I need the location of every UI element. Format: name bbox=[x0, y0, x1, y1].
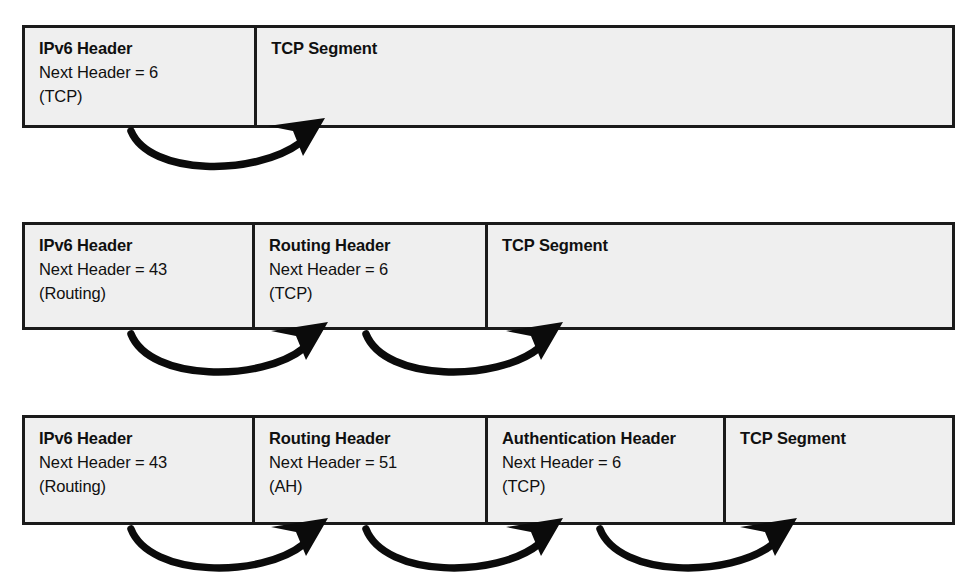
cell-next-header-protocol: (TCP) bbox=[269, 282, 485, 306]
cell-next-header-value: Next Header = 51 bbox=[269, 451, 485, 475]
packet-cell-tcp-segment: TCP Segment bbox=[488, 225, 952, 327]
cell-title: IPv6 Header bbox=[39, 234, 252, 258]
cell-next-header-value: Next Header = 6 bbox=[39, 61, 254, 85]
cell-next-header-value: Next Header = 6 bbox=[269, 258, 485, 282]
packet-row-two-extension-headers: IPv6 Header Next Header = 43 (Routing) R… bbox=[22, 415, 955, 525]
packet-row-no-extension-headers: IPv6 Header Next Header = 6 (TCP) TCP Se… bbox=[22, 25, 955, 128]
packet-cell-routing-header: Routing Header Next Header = 6 (TCP) bbox=[255, 225, 488, 327]
cell-next-header-protocol: (Routing) bbox=[39, 475, 252, 499]
packet-cell-tcp-segment: TCP Segment bbox=[726, 418, 952, 522]
cell-title: Routing Header bbox=[269, 427, 485, 451]
cell-next-header-value: Next Header = 6 bbox=[502, 451, 723, 475]
packet-cell-ipv6-header: IPv6 Header Next Header = 6 (TCP) bbox=[25, 28, 257, 125]
arrow-row2-routing-to-ah bbox=[366, 518, 563, 568]
cell-title: IPv6 Header bbox=[39, 37, 254, 61]
packet-cell-tcp-segment: TCP Segment bbox=[257, 28, 952, 125]
packet-cell-ipv6-header: IPv6 Header Next Header = 43 (Routing) bbox=[25, 225, 255, 327]
cell-title: Authentication Header bbox=[502, 427, 723, 451]
arrow-row2-ipv6-to-routing bbox=[131, 518, 328, 568]
cell-next-header-protocol: (AH) bbox=[269, 475, 485, 499]
packet-cell-authentication-header: Authentication Header Next Header = 6 (T… bbox=[488, 418, 726, 522]
cell-next-header-value: Next Header = 43 bbox=[39, 258, 252, 282]
cell-title: TCP Segment bbox=[502, 234, 952, 258]
cell-next-header-protocol: (TCP) bbox=[502, 475, 723, 499]
packet-row-one-extension-header: IPv6 Header Next Header = 43 (Routing) R… bbox=[22, 222, 955, 330]
cell-title: Routing Header bbox=[269, 234, 485, 258]
cell-next-header-protocol: (Routing) bbox=[39, 282, 252, 306]
cell-next-header-value: Next Header = 43 bbox=[39, 451, 252, 475]
cell-title: IPv6 Header bbox=[39, 427, 252, 451]
cell-title: TCP Segment bbox=[740, 427, 952, 451]
diagram-canvas: IPv6 Header Next Header = 6 (TCP) TCP Se… bbox=[0, 0, 975, 576]
cell-title: TCP Segment bbox=[271, 37, 952, 61]
cell-next-header-protocol: (TCP) bbox=[39, 85, 254, 109]
packet-cell-routing-header: Routing Header Next Header = 51 (AH) bbox=[255, 418, 488, 522]
arrow-row2-ah-to-tcp bbox=[600, 518, 797, 568]
packet-cell-ipv6-header: IPv6 Header Next Header = 43 (Routing) bbox=[25, 418, 255, 522]
